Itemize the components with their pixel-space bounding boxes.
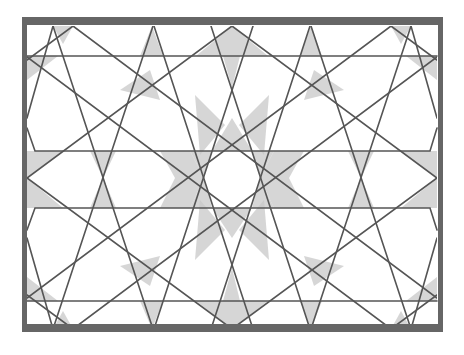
shallow-line — [73, 57, 437, 329]
geometric-pattern-canvas — [0, 0, 464, 355]
frame-right — [438, 17, 443, 332]
shallow-line — [27, 26, 73, 60]
shaded-region — [304, 70, 344, 100]
shaded-regions — [27, 26, 437, 329]
shallow-line — [27, 26, 391, 298]
shaded-region — [90, 151, 116, 178]
shaded-region — [196, 26, 268, 56]
shallow-line — [27, 57, 391, 329]
shallow-line — [73, 26, 437, 298]
frame-left — [22, 17, 27, 332]
shaded-region — [120, 70, 160, 100]
shaded-region — [406, 277, 437, 301]
shallow-line — [391, 26, 437, 60]
frame-bottom — [22, 324, 443, 332]
frame-top — [22, 17, 443, 25]
shaded-region — [27, 277, 58, 301]
shaded-region — [348, 151, 374, 178]
